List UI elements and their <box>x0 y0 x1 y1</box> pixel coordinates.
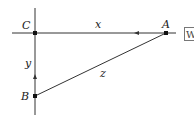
edge-x-label: x <box>95 18 102 31</box>
point-b-marker <box>33 94 37 98</box>
point-c-label: C <box>22 19 31 32</box>
point-b-label: B <box>20 90 29 103</box>
side-box-label: W <box>186 29 194 40</box>
edge-z-label: z <box>99 67 106 80</box>
y-arrow-icon <box>33 74 37 79</box>
edge-y-label: y <box>24 57 32 70</box>
hypotenuse-z-line <box>35 33 166 96</box>
point-a-label: A <box>161 18 170 31</box>
x-arrow-icon <box>134 31 139 35</box>
point-c-marker <box>33 31 37 35</box>
point-a-marker <box>164 31 168 35</box>
triangle-diagram: C x A y z B W <box>0 0 194 123</box>
